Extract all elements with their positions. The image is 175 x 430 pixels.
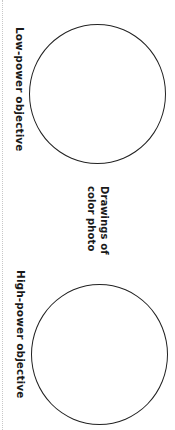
- drawings-caption: Drawings of color photo: [85, 186, 111, 255]
- high-power-drawing-circle[interactable]: [31, 284, 168, 425]
- caption-line-2: color photo: [86, 186, 97, 251]
- caption-line-1: Drawings of: [99, 186, 110, 255]
- perforation-edge: [2, 0, 3, 430]
- low-power-label: Low-power objective: [14, 27, 26, 152]
- low-power-drawing-circle[interactable]: [29, 24, 166, 164]
- high-power-label: High-power objective: [15, 270, 27, 398]
